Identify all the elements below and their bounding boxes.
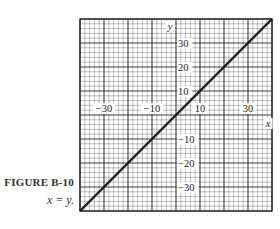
y-tick-label: 10: [178, 86, 189, 97]
y-axis-label: y: [167, 21, 173, 32]
x-tick-label: −30: [96, 103, 112, 114]
figure-equation: x = y.: [47, 193, 74, 208]
x-tick-label: −10: [144, 103, 160, 114]
y-tick-label: −30: [178, 182, 194, 193]
y-tick-label: −20: [178, 158, 194, 169]
figure-plot: −30−101030302010−10−20−30yx: [0, 0, 280, 229]
figure-label: FIGURE B-10: [4, 176, 74, 188]
y-tick-label: −10: [178, 134, 194, 145]
x-axis-label: x: [265, 118, 271, 129]
y-tick-label: 30: [178, 38, 189, 49]
y-tick-label: 20: [178, 62, 189, 73]
x-tick-label: 30: [243, 103, 254, 114]
x-tick-label: 10: [195, 103, 206, 114]
